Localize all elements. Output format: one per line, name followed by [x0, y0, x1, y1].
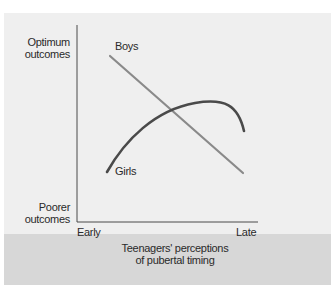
x-axis-title-line1: Teenagers' perceptions — [100, 242, 250, 254]
y-label-top-line1: Optimum — [8, 36, 70, 48]
x-axis-title: Teenagers' perceptions of pubertal timin… — [100, 242, 250, 266]
y-label-bottom: Poorer outcomes — [8, 201, 70, 225]
series-label-girls: Girls — [115, 165, 136, 177]
x-tick-early: Early — [77, 226, 101, 238]
y-label-top-line2: outcomes — [8, 48, 70, 60]
boys-line — [110, 56, 243, 173]
y-label-top: Optimum outcomes — [8, 36, 70, 60]
girls-curve — [107, 101, 244, 172]
x-axis-title-line2: of pubertal timing — [100, 254, 250, 266]
series-label-boys: Boys — [115, 40, 138, 52]
x-tick-late: Late — [236, 226, 256, 238]
y-label-bottom-line1: Poorer — [8, 201, 70, 213]
y-label-bottom-line2: outcomes — [8, 213, 70, 225]
